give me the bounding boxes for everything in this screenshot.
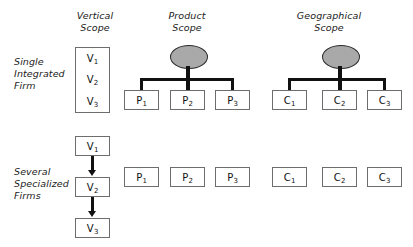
column-header-vertical-scope-line1: Vertical	[77, 10, 114, 21]
geographical-specialized-node-c2-base: C	[334, 172, 341, 183]
geographical-scope-drop-connector-2	[338, 78, 342, 91]
geographical-specialized-node-c2-sub: 2	[341, 177, 345, 185]
product-scope-drop-connector-2	[186, 78, 190, 91]
product-scope-node-p3-base: P	[227, 95, 233, 106]
product-scope-drop-connector-3	[231, 78, 234, 91]
geographical-scope-node-c1: C1	[272, 90, 307, 110]
product-specialized-node-p1: P1	[124, 167, 159, 187]
product-scope-node-p1-base: P	[136, 95, 142, 106]
product-specialized-node-p1-base: P	[136, 172, 142, 183]
product-specialized-node-p3-sub: 3	[234, 177, 238, 185]
vertical-scope-node-v1-base: V	[87, 53, 94, 64]
column-header-product-scope: Product Scope	[132, 10, 242, 33]
column-header-geographical-scope-line2: Scope	[274, 22, 384, 34]
column-header-product-scope-line1: Product	[168, 10, 205, 21]
product-specialized-node-p3-base: P	[227, 172, 233, 183]
vertical-scope-node-v3: V3	[87, 96, 98, 107]
product-scope-node-p3: P3	[215, 90, 250, 110]
product-specialized-node-p1-sub: 1	[143, 177, 147, 185]
column-header-product-scope-line2: Scope	[132, 22, 242, 34]
vertical-scope-integrated-box: V1 V2 V3	[75, 47, 110, 113]
vertical-chain-node-v1-sub: 1	[94, 146, 98, 154]
product-scope-node-p1: P1	[124, 90, 159, 110]
vertical-chain-node-v3: V3	[75, 218, 110, 238]
vertical-chain-arrow-1-head	[88, 170, 96, 176]
product-scope-node-p3-sub: 3	[234, 100, 238, 108]
geographical-scope-node-c3: C3	[367, 90, 402, 110]
vertical-chain-node-v1-base: V	[87, 141, 94, 152]
vertical-chain-node-v2-base: V	[87, 182, 94, 193]
vertical-chain-node-v2-sub: 2	[94, 187, 98, 195]
vertical-scope-node-v1: V1	[87, 53, 98, 64]
geographical-scope-drop-connector-1	[288, 78, 291, 91]
product-scope-drop-connector-1	[140, 78, 143, 91]
product-scope-node-p2: P2	[170, 90, 205, 110]
vertical-chain-node-v1: V1	[75, 136, 110, 156]
product-scope-node-p1-sub: 1	[143, 100, 147, 108]
product-specialized-node-p2-base: P	[182, 172, 188, 183]
vertical-chain-arrow-2-head	[88, 211, 96, 217]
geographical-scope-node-c2-sub: 2	[341, 100, 345, 108]
product-scope-node-p2-sub: 2	[189, 100, 193, 108]
vertical-scope-node-v2: V2	[87, 74, 98, 85]
vertical-chain-node-v3-sub: 3	[94, 228, 98, 236]
geographical-scope-node-c2-base: C	[334, 95, 341, 106]
vertical-scope-node-v3-sub: 3	[94, 101, 98, 109]
product-scope-node-p2-base: P	[182, 95, 188, 106]
geographical-scope-drop-connector-3	[383, 78, 386, 91]
vertical-chain-node-v2: V2	[75, 177, 110, 197]
product-specialized-node-p3: P3	[215, 167, 250, 187]
product-specialized-node-p2: P2	[170, 167, 205, 187]
vertical-scope-node-v1-sub: 1	[94, 58, 98, 66]
geographical-scope-node-c3-base: C	[379, 95, 386, 106]
geographical-specialized-node-c3: C3	[367, 167, 402, 187]
geographical-specialized-node-c2: C2	[322, 167, 357, 187]
vertical-chain-node-v3-base: V	[87, 223, 94, 234]
geographical-specialized-node-c1-sub: 1	[291, 177, 295, 185]
vertical-scope-node-v2-base: V	[87, 74, 94, 85]
scope-matrix-diagram: Vertical Scope Product Scope Geographica…	[0, 0, 413, 247]
geographical-scope-node-c1-base: C	[284, 95, 291, 106]
geographical-scope-horizontal-connector	[288, 78, 386, 81]
geographical-specialized-node-c1: C1	[272, 167, 307, 187]
geographical-specialized-node-c3-sub: 3	[386, 177, 390, 185]
vertical-scope-node-v3-base: V	[87, 96, 94, 107]
geographical-scope-node-c3-sub: 3	[386, 100, 390, 108]
geographical-specialized-node-c1-base: C	[284, 172, 291, 183]
column-header-geographical-scope-line1: Geographical	[297, 10, 361, 21]
geographical-scope-node-c2: C2	[322, 90, 357, 110]
product-specialized-node-p2-sub: 2	[189, 177, 193, 185]
vertical-scope-node-v2-sub: 2	[94, 79, 98, 87]
column-header-geographical-scope: Geographical Scope	[274, 10, 384, 33]
geographical-scope-node-c1-sub: 1	[291, 100, 295, 108]
geographical-specialized-node-c3-base: C	[379, 172, 386, 183]
